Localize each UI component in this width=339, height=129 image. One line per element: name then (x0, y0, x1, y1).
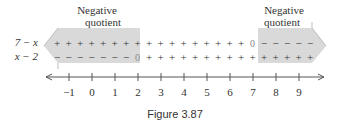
sign-glyph: + (169, 51, 175, 63)
left-region-label-line1: Negative (77, 4, 117, 16)
sign-glyph: + (180, 37, 186, 49)
tick-label: 7 (250, 86, 256, 98)
sign-glyph: + (192, 51, 198, 63)
sign-glyph: 0 (135, 52, 140, 63)
sign-glyph: + (307, 51, 313, 63)
sign-glyph: − (284, 37, 290, 49)
tick-label: 4 (181, 86, 187, 98)
sign-row-7-minus-x: +++++++++++++++++0−−−−− (54, 37, 313, 49)
sign-glyph: + (226, 51, 232, 63)
sign-glyph: + (238, 37, 244, 49)
sign-glyph: + (272, 51, 278, 63)
tick-label: 2 (135, 86, 141, 98)
figure-caption: Figure 3.87 (147, 108, 203, 120)
sign-glyph: − (261, 37, 267, 49)
sign-glyph: + (157, 37, 163, 49)
sign-glyph: + (111, 37, 117, 49)
sign-row-x-minus-2: −−−−−−−0+++++++++++++++ (54, 51, 313, 63)
right-negative-region (258, 22, 326, 63)
tick-label: 6 (227, 86, 233, 98)
sign-glyph: + (134, 37, 140, 49)
sign-glyph: − (307, 37, 313, 49)
tick-label: 8 (273, 86, 279, 98)
row-label-x-minus-2: x − 2 (14, 50, 39, 62)
sign-glyph: − (111, 51, 117, 63)
sign-glyph: − (123, 51, 129, 63)
sign-glyph: + (215, 37, 221, 49)
sign-glyph: + (192, 37, 198, 49)
sign-glyph: + (203, 37, 209, 49)
right-region-label-line1: Negative (264, 4, 304, 16)
sign-glyph: + (100, 37, 106, 49)
sign-glyph: + (284, 51, 290, 63)
sign-glyph: + (157, 51, 163, 63)
sign-glyph: + (169, 37, 175, 49)
sign-glyph: + (295, 51, 301, 63)
sign-glyph: − (54, 51, 60, 63)
sign-glyph: + (146, 51, 152, 63)
sign-glyph: + (261, 51, 267, 63)
tick-label: 3 (158, 86, 164, 98)
sign-glyph: − (272, 37, 278, 49)
sign-glyph: − (65, 51, 71, 63)
row-label-7-minus-x: 7 − x (15, 36, 38, 48)
sign-glyph: + (88, 37, 94, 49)
sign-glyph: + (203, 51, 209, 63)
sign-glyph: + (238, 51, 244, 63)
tick-label: −1 (63, 86, 75, 98)
sign-glyph: + (226, 37, 232, 49)
sign-glyph: + (215, 51, 221, 63)
tick-label: 9 (296, 86, 302, 98)
sign-glyph: + (123, 37, 129, 49)
number-line: −10123456789 (46, 73, 324, 98)
sign-glyph: − (100, 51, 106, 63)
sign-glyph: − (88, 51, 94, 63)
sign-glyph: + (180, 51, 186, 63)
sign-glyph: + (54, 37, 60, 49)
sign-glyph: + (65, 37, 71, 49)
sign-glyph: + (77, 37, 83, 49)
sign-glyph: − (77, 51, 83, 63)
tick-label: 1 (112, 86, 118, 98)
sign-glyph: 0 (250, 38, 255, 49)
sign-glyph: + (249, 51, 255, 63)
tick-label: 5 (204, 86, 210, 98)
left-region-label-line2: quotient (85, 16, 121, 28)
right-region-label-line2: quotient (264, 16, 300, 28)
tick-label: 0 (89, 86, 95, 98)
sign-glyph: − (295, 37, 301, 49)
sign-glyph: + (146, 37, 152, 49)
sign-chart-diagram: Negative quotient Negative quotient 7 − … (0, 0, 339, 129)
